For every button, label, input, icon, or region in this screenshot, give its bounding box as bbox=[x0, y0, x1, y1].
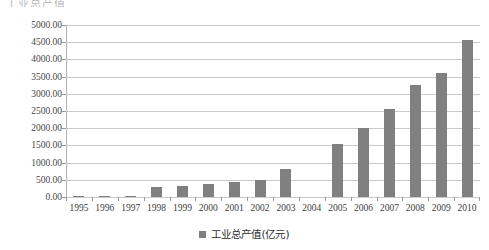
x-axis-tick-label: 2004 bbox=[299, 201, 325, 217]
x-axis-tick-label: 1995 bbox=[66, 201, 92, 217]
y-axis-labels: 5000.004500.004000.003500.003000.002500.… bbox=[0, 25, 62, 197]
x-axis-tick-label: 2008 bbox=[402, 201, 428, 217]
y-axis-tick-label: 3000.00 bbox=[0, 89, 62, 99]
x-axis-tick-label: 2006 bbox=[351, 201, 377, 217]
y-axis-tick-label: 1500.00 bbox=[0, 140, 62, 150]
x-axis-tick-label: 2007 bbox=[377, 201, 403, 217]
x-axis-tick-label: 2001 bbox=[221, 201, 247, 217]
x-axis-labels: 1995199619971998199920002001200220032004… bbox=[66, 201, 480, 217]
y-axis-tick-label: 4000.00 bbox=[0, 54, 62, 64]
y-axis-tick-label: 3500.00 bbox=[0, 72, 62, 82]
bar bbox=[151, 187, 162, 197]
bar-slot bbox=[247, 25, 273, 197]
bar bbox=[177, 186, 188, 197]
bar-slot bbox=[299, 25, 325, 197]
x-axis-tick-label: 2009 bbox=[428, 201, 454, 217]
chart-title-fragment: 工业总产值 bbox=[6, 0, 66, 7]
bar bbox=[203, 184, 214, 197]
x-axis-tick-label: 2002 bbox=[247, 201, 273, 217]
legend-label: 工业总产值(亿元) bbox=[211, 228, 289, 240]
y-axis-tick-label: 5000.00 bbox=[0, 20, 62, 30]
x-axis-tick-label: 2010 bbox=[454, 201, 480, 217]
y-axis-tick-label: 500.00 bbox=[0, 175, 62, 185]
bar bbox=[280, 169, 291, 197]
x-axis-tick-label: 1999 bbox=[170, 201, 196, 217]
y-axis-tick-label: 0.00 bbox=[0, 192, 62, 202]
plot-area bbox=[66, 25, 480, 197]
bar-slot bbox=[351, 25, 377, 197]
x-axis-tick-label: 2005 bbox=[325, 201, 351, 217]
y-axis-tick-label: 4500.00 bbox=[0, 37, 62, 47]
legend-swatch-icon bbox=[199, 231, 206, 238]
bar-slot bbox=[325, 25, 351, 197]
chart-legend: 工业总产值(亿元) bbox=[0, 228, 489, 240]
bar-slot bbox=[428, 25, 454, 197]
x-axis-tick-label: 2003 bbox=[273, 201, 299, 217]
bar-slot bbox=[118, 25, 144, 197]
bar-slot bbox=[144, 25, 170, 197]
bar-slot bbox=[66, 25, 92, 197]
bar-slot bbox=[195, 25, 221, 197]
x-axis-tick-label: 1998 bbox=[144, 201, 170, 217]
bar bbox=[410, 85, 421, 197]
y-axis-tick-label: 2000.00 bbox=[0, 123, 62, 133]
bar bbox=[332, 144, 343, 197]
bar-slot bbox=[454, 25, 480, 197]
bar bbox=[462, 40, 473, 197]
bar-slot bbox=[273, 25, 299, 197]
x-axis-tick-label: 1996 bbox=[92, 201, 118, 217]
y-axis-tick-label: 1000.00 bbox=[0, 158, 62, 168]
bar-slot bbox=[377, 25, 403, 197]
bar-slot bbox=[92, 25, 118, 197]
bar-slot bbox=[221, 25, 247, 197]
bar-series bbox=[66, 25, 480, 197]
bar bbox=[255, 180, 266, 197]
bar-chart: 工业总产值 5000.004500.004000.003500.003000.0… bbox=[0, 0, 489, 250]
y-axis-tick-label: 2500.00 bbox=[0, 106, 62, 116]
bar-slot bbox=[402, 25, 428, 197]
bar bbox=[436, 73, 447, 197]
bar bbox=[358, 128, 369, 197]
x-axis-tick-label: 1997 bbox=[118, 201, 144, 217]
bar bbox=[229, 182, 240, 197]
x-axis-tick-label: 2000 bbox=[195, 201, 221, 217]
bar-slot bbox=[170, 25, 196, 197]
bar bbox=[384, 109, 395, 197]
